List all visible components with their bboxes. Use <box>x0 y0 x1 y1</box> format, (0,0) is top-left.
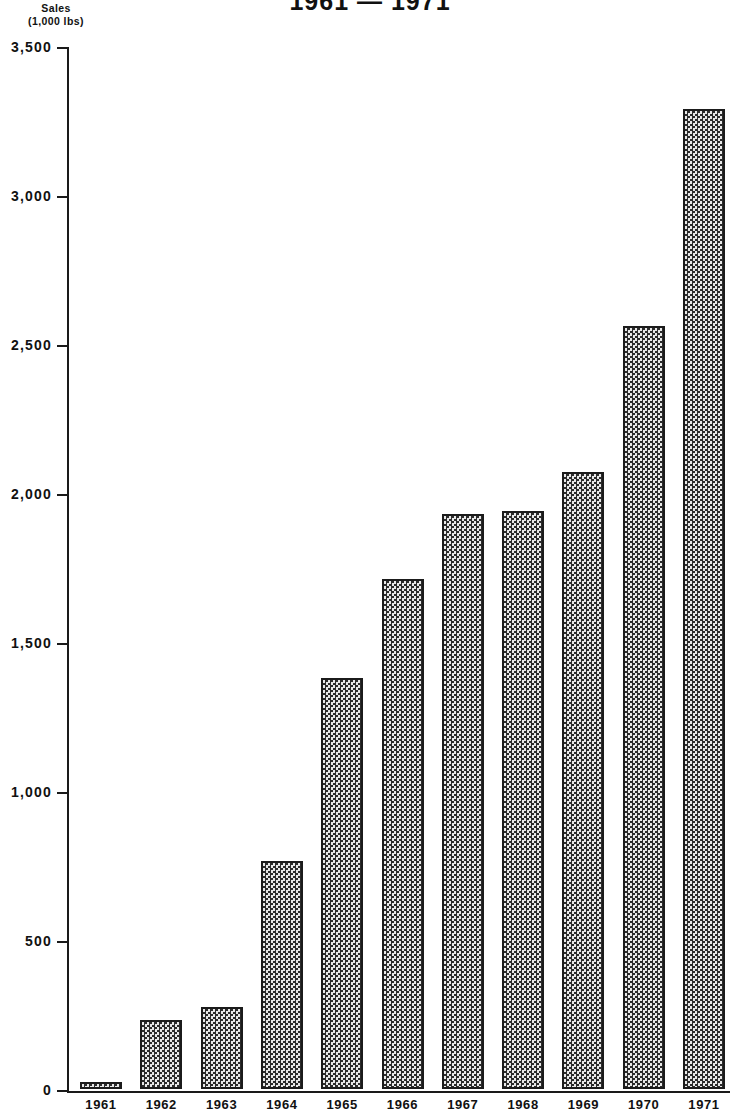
y-axis-tick-label: 2,000 <box>11 486 52 502</box>
y-axis-tick: 0 <box>57 1090 69 1092</box>
x-axis-tick-label: 1966 <box>387 1097 418 1112</box>
bar-slot: 1962 <box>140 48 182 1091</box>
y-axis-tick-label: 500 <box>25 933 52 949</box>
x-axis-line <box>67 1091 730 1093</box>
bar-1971[interactable] <box>683 109 725 1089</box>
y-axis-tick: 1,000 <box>57 792 69 794</box>
bar-1969[interactable] <box>562 472 604 1089</box>
y-axis-tick: 3,500 <box>57 47 69 49</box>
bar-slot: 1971 <box>683 48 725 1091</box>
bar-1965[interactable] <box>321 678 363 1089</box>
x-axis-tick-label: 1965 <box>327 1097 358 1112</box>
y-axis-tick: 2,500 <box>57 345 69 347</box>
x-axis-tick-label: 1968 <box>507 1097 538 1112</box>
bar-1961[interactable] <box>80 1082 122 1089</box>
y-axis-tick-label: 1,500 <box>11 635 52 651</box>
chart-title: 1961 — 1971 <box>0 0 740 16</box>
bar-slot: 1965 <box>321 48 363 1091</box>
bar-slot: 1963 <box>201 48 243 1091</box>
bar-series: 1961196219631964196519661967196819691970… <box>69 48 730 1091</box>
x-axis-tick-label: 1964 <box>266 1097 297 1112</box>
y-axis-tick: 3,000 <box>57 196 69 198</box>
x-axis-tick-label: 1967 <box>447 1097 478 1112</box>
y-axis-tick: 500 <box>57 941 69 943</box>
bar-1967[interactable] <box>442 514 484 1089</box>
bar-1964[interactable] <box>261 861 303 1089</box>
x-axis-tick-label: 1961 <box>85 1097 116 1112</box>
bar-slot: 1964 <box>261 48 303 1091</box>
x-axis-tick-label: 1963 <box>206 1097 237 1112</box>
bar-slot: 1970 <box>623 48 665 1091</box>
bar-slot: 1967 <box>442 48 484 1091</box>
bar-slot: 1968 <box>502 48 544 1091</box>
y-axis-tick-label: 3,500 <box>11 39 52 55</box>
x-axis-tick-label: 1970 <box>628 1097 659 1112</box>
y-axis-tick: 2,000 <box>57 494 69 496</box>
x-axis-tick-label: 1971 <box>688 1097 719 1112</box>
bar-slot: 1966 <box>382 48 424 1091</box>
y-axis-tick: 1,500 <box>57 643 69 645</box>
bar-1968[interactable] <box>502 511 544 1089</box>
y-axis-tick-label: 2,500 <box>11 337 52 353</box>
plot-area: 3,5003,0002,5002,0001,5001,0005000 19611… <box>67 48 732 1093</box>
y-axis-tick-label: 0 <box>43 1082 52 1098</box>
x-axis-tick-label: 1969 <box>568 1097 599 1112</box>
chart-page: 1961 — 1971 Sales (1,000 lbs) 3,5003,000… <box>0 0 740 1118</box>
bar-slot: 1969 <box>562 48 604 1091</box>
y-axis-label-line-2: (1,000 lbs) <box>2 15 110 28</box>
bar-1963[interactable] <box>201 1007 243 1089</box>
bar-slot: 1961 <box>80 48 122 1091</box>
bar-1970[interactable] <box>623 326 665 1089</box>
y-axis-label: Sales (1,000 lbs) <box>2 2 110 28</box>
bar-1966[interactable] <box>382 579 424 1089</box>
y-axis-tick-label: 1,000 <box>11 784 52 800</box>
y-axis-tick-label: 3,000 <box>11 188 52 204</box>
y-axis-label-line-1: Sales <box>2 2 110 15</box>
x-axis-tick-label: 1962 <box>146 1097 177 1112</box>
bar-1962[interactable] <box>140 1020 182 1089</box>
